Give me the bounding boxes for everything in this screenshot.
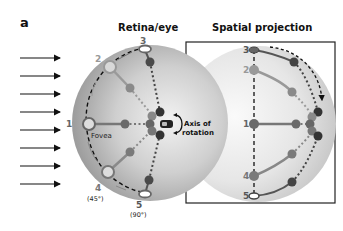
projection-label-4: 4 bbox=[243, 171, 249, 181]
projection-label-1: 1 bbox=[243, 119, 249, 129]
retina-point-5 bbox=[139, 191, 151, 198]
figure-panel: a Retina/eye Spatial projection 3 2 1 Fo… bbox=[0, 0, 343, 231]
projection-point-5 bbox=[249, 193, 259, 199]
projection-node-4-mid bbox=[288, 150, 297, 159]
retina-label-3: 3 bbox=[140, 36, 146, 46]
incoming-light-arrows bbox=[20, 58, 60, 184]
projection-label-5: 5 bbox=[243, 191, 249, 201]
title-retina: Retina/eye bbox=[118, 22, 179, 33]
retina-point-2 bbox=[104, 61, 116, 73]
projection-point-3 bbox=[249, 47, 259, 53]
projection-label-2: 2 bbox=[243, 65, 249, 75]
panel-label: a bbox=[20, 15, 29, 30]
axis-label-line1: Axis of bbox=[184, 120, 212, 128]
axis-label-line2: rotation bbox=[182, 129, 214, 137]
retina-node-3-mid bbox=[146, 58, 155, 67]
title-projection: Spatial projection bbox=[212, 22, 312, 33]
projection-node-1-mid bbox=[292, 120, 301, 129]
retina-node-5-mid bbox=[145, 176, 154, 185]
projection-point-4 bbox=[249, 171, 259, 181]
projection-node-2-mid bbox=[288, 88, 297, 97]
projection-label-3: 3 bbox=[243, 45, 249, 55]
retina-label-5: 5 bbox=[136, 200, 142, 210]
retina-label-4-angle: (45°) bbox=[87, 195, 104, 203]
retina-label-1: 1 bbox=[66, 119, 72, 129]
retina-node-2-mid bbox=[126, 84, 135, 93]
retina-point-1-fovea bbox=[83, 118, 95, 130]
retina-label-2: 2 bbox=[95, 54, 101, 64]
retina-label-4: 4 bbox=[95, 183, 101, 193]
projection-node-5-mid bbox=[288, 178, 297, 187]
retina-point-3 bbox=[139, 46, 151, 53]
diagram-canvas: a Retina/eye Spatial projection 3 2 1 Fo… bbox=[0, 0, 343, 231]
retina-label-5-angle: (90°) bbox=[130, 211, 147, 219]
retina-node-4-mid bbox=[126, 148, 135, 157]
projection-point-2 bbox=[249, 65, 259, 75]
projection-point-1 bbox=[249, 119, 259, 129]
projection-node-3-mid bbox=[290, 58, 299, 67]
fovea-label: Fovea bbox=[91, 132, 112, 140]
retina-point-4 bbox=[102, 166, 114, 178]
retina-node-1-mid bbox=[121, 120, 130, 129]
